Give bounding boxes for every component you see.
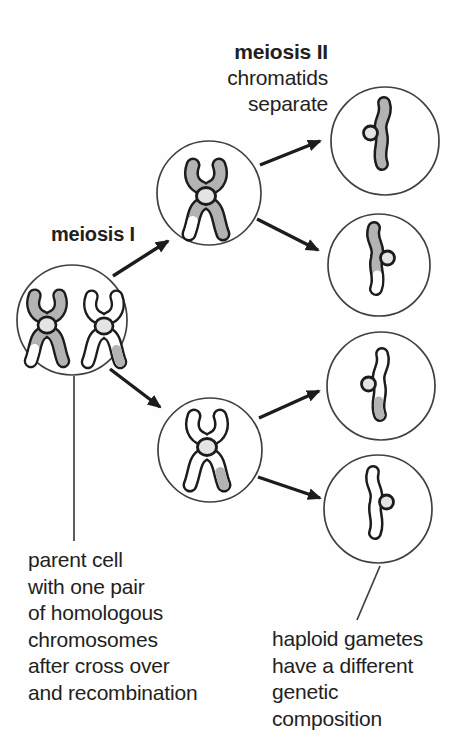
arrow-top-cell-to-gamete-2 <box>257 219 318 250</box>
meiosis2-label: meiosis II chromatids separate <box>180 39 328 117</box>
gamete-cell-2 <box>328 214 430 316</box>
parent-cell-caption: parent cell with one pair of homologous … <box>28 547 197 706</box>
gamete-cell-1 <box>331 87 439 195</box>
gamete-cell-4 <box>324 455 432 563</box>
meiosis1-top-cell <box>157 141 261 245</box>
arrow-top-cell-to-gamete-1 <box>260 141 320 165</box>
meiosis2-subtitle: chromatids separate <box>180 65 328 117</box>
leader-line-gametes-caption <box>357 566 380 620</box>
arrow-bottom-cell-to-gamete-4 <box>258 477 320 498</box>
arrow-bottom-cell-to-gamete-3 <box>259 391 319 418</box>
meiosis-diagram-page: meiosis I meiosis II chromatids separate… <box>0 0 466 756</box>
meiosis1-bottom-cell <box>158 398 262 502</box>
gametes-caption: haploid gametes have a different genetic… <box>272 626 423 732</box>
gamete-cell-3 <box>327 332 435 440</box>
parent-cell <box>17 265 127 375</box>
meiosis1-label: meiosis I <box>51 221 135 247</box>
arrow-parent-to-bottom-cell <box>110 369 160 407</box>
meiosis2-title: meiosis II <box>180 39 328 65</box>
